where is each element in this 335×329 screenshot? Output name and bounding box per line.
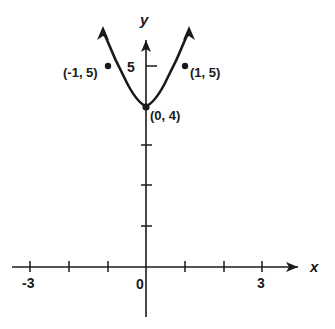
x-tick-label-3: 3: [257, 275, 265, 291]
point-label-vertex: (0, 4): [150, 108, 180, 123]
y-axis-label: y: [139, 11, 149, 28]
x-tick-label--3: -3: [22, 275, 35, 291]
curve-left-arrowhead: [97, 26, 109, 40]
point-label-left: (-1, 5): [63, 65, 98, 80]
y-tick-label-5: 5: [127, 59, 135, 75]
point-label-right: (1, 5): [190, 65, 220, 80]
data-point-vertex: [142, 103, 149, 110]
data-point-left: [105, 63, 111, 69]
y-axis-ticks: [141, 66, 157, 226]
origin-label: 0: [136, 276, 144, 292]
coordinate-plane: y x -3 0 3 5 (-1, 5) (0, 4) (1, 5): [0, 0, 335, 329]
parabola-graph-figure: y x -3 0 3 5 (-1, 5) (0, 4) (1, 5): [0, 0, 335, 329]
data-point-right: [182, 63, 188, 69]
curve-right-arrowhead: [183, 26, 195, 40]
x-axis-label: x: [309, 258, 319, 275]
